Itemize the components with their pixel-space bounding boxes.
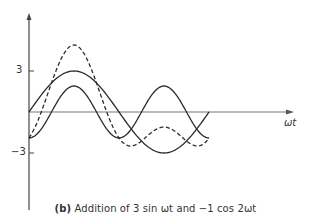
plot-canvas (0, 0, 311, 224)
x-axis-label: ωt (284, 118, 296, 128)
y-axis-arrow-icon (27, 13, 32, 20)
caption-text: Addition of 3 sin ωt and −1 cos 2ωt (75, 203, 257, 214)
y-tick-label-3: 3 (16, 65, 22, 75)
caption-tag: (b) (55, 203, 72, 214)
sum-dashed-curve (29, 45, 209, 146)
x-axis-arrow-icon (286, 110, 294, 115)
figure-caption: (b) Addition of 3 sin ωt and −1 cos 2ωt (0, 203, 311, 214)
y-tick-label-neg3: −3 (11, 147, 26, 157)
